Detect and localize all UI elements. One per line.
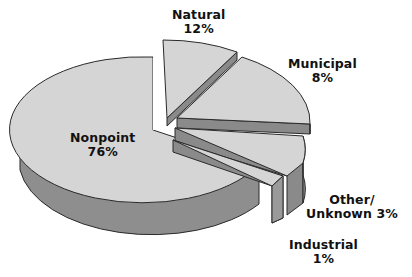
label-industrial-pct: 1% (289, 252, 358, 266)
label-other-line2: Unknown 3% (306, 207, 398, 221)
label-municipal: Municipal 8% (288, 57, 357, 85)
label-industrial: Industrial 1% (289, 238, 358, 266)
label-natural: Natural 12% (172, 8, 225, 36)
label-natural-name: Natural (172, 8, 225, 22)
label-other-line1: Other/ (306, 193, 398, 207)
label-nonpoint: Nonpoint 76% (70, 131, 135, 159)
label-other: Other/ Unknown 3% (306, 193, 398, 221)
label-nonpoint-name: Nonpoint (70, 131, 135, 145)
pie-chart (0, 0, 412, 277)
label-natural-pct: 12% (172, 22, 225, 36)
label-industrial-name: Industrial (289, 238, 358, 252)
label-municipal-name: Municipal (288, 57, 357, 71)
label-municipal-pct: 8% (288, 71, 357, 85)
label-nonpoint-pct: 76% (70, 145, 135, 159)
